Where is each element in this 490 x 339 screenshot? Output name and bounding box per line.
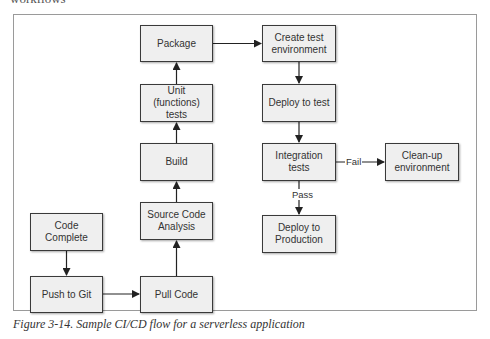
edge-label-pass: Pass xyxy=(291,189,314,200)
node-integration-tests: Integration tests xyxy=(262,143,336,181)
node-push-to-git: Push to Git xyxy=(30,276,103,313)
node-build: Build xyxy=(140,143,213,181)
node-package: Package xyxy=(140,25,213,62)
node-code-complete: Code Complete xyxy=(30,213,103,251)
node-clean-up-environment: Clean-up environment xyxy=(385,143,459,181)
node-deploy-to-production: Deploy to Production xyxy=(262,215,336,253)
node-source-code-analysis: Source Code Analysis xyxy=(140,202,213,240)
node-pull-code: Pull Code xyxy=(140,276,213,313)
node-deploy-to-test: Deploy to test xyxy=(262,84,336,122)
node-unit-tests: Unit (functions) tests xyxy=(140,84,213,122)
edge-label-fail: Fail xyxy=(345,156,362,167)
figure-caption: Figure 3-14. Sample CI/CD flow for a ser… xyxy=(13,317,305,332)
node-create-test-environment: Create test environment xyxy=(262,25,336,62)
